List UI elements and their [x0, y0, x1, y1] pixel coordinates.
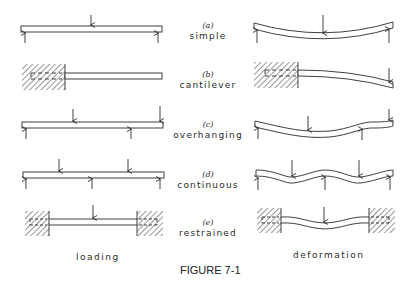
case-label-simple: (a) simple: [158, 21, 258, 41]
case-label-cantilever: (b) cantilever: [158, 70, 258, 90]
continuous-loading-beam: [23, 159, 164, 189]
case-name: overhanging: [173, 130, 243, 140]
case-letter: (b): [158, 70, 258, 80]
case-label-overhanging: (c) overhanging: [158, 120, 258, 140]
case-letter: (a): [158, 21, 258, 31]
case-label-restrained: (e) restrained: [158, 218, 258, 238]
case-letter: (e): [158, 218, 258, 228]
case-name: cantilever: [180, 80, 237, 90]
case-name: restrained: [179, 228, 237, 238]
restrained-loading-beam: [25, 205, 163, 236]
case-letter: (c): [158, 120, 258, 130]
beam-diagram: [0, 0, 415, 289]
case-label-continuous: (d) continuous: [158, 170, 258, 190]
case-name: continuous: [177, 180, 239, 190]
continuous-deformation-beam: [256, 160, 393, 190]
figure-caption: FIGURE 7-1: [180, 264, 241, 276]
overhanging-deformation-beam: [255, 109, 393, 140]
column-heading-deformation: deformation: [293, 250, 365, 260]
overhanging-loading-beam: [22, 106, 163, 139]
simple-loading-beam: [21, 15, 162, 43]
restrained-deformation-beam: [257, 207, 395, 233]
cantilever-loading-beam: [22, 64, 162, 90]
column-heading-loading: loading: [76, 252, 120, 262]
cantilever-deformation-beam: [254, 62, 393, 88]
simple-deformation-beam: [254, 15, 393, 43]
case-name: simple: [190, 31, 227, 41]
case-letter: (d): [158, 170, 258, 180]
